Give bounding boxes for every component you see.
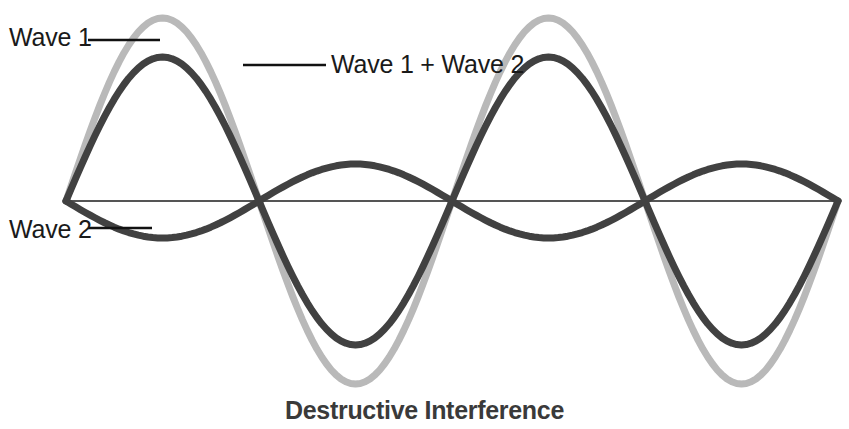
sum-label: Wave 1 + Wave 2 — [331, 50, 524, 79]
wave1-label: Wave 1 — [9, 23, 92, 52]
destructive-interference-figure: Wave 1 Wave 2 Wave 1 + Wave 2 Destructiv… — [0, 0, 849, 429]
wave2-label: Wave 2 — [9, 215, 92, 244]
figure-caption: Destructive Interference — [0, 396, 849, 425]
